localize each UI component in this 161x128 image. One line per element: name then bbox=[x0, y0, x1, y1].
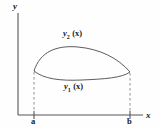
lower-bound-a-label: a bbox=[31, 117, 35, 126]
region-between-curves-figure: y x a b y2(x) y1(x) bbox=[0, 0, 161, 128]
upper-curve-label-subscript: 2 bbox=[67, 34, 70, 40]
lower-curve-label: y1(x) bbox=[64, 82, 83, 93]
lower-curve-label-argument: (x) bbox=[73, 81, 83, 91]
upper-bound-b-label: b bbox=[127, 117, 132, 126]
lower-curve-y1 bbox=[34, 71, 130, 80]
upper-curve-label: y2(x) bbox=[63, 29, 82, 40]
upper-curve-label-argument: (x) bbox=[72, 28, 82, 38]
lower-curve-label-subscript: 1 bbox=[68, 87, 71, 93]
upper-curve-y2 bbox=[34, 47, 130, 72]
y-axis-label: y bbox=[13, 2, 17, 11]
figure-canvas bbox=[0, 0, 161, 128]
x-axis-label: x bbox=[146, 111, 151, 120]
